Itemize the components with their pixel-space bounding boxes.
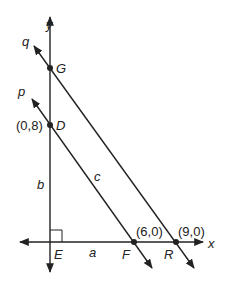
- point-f: [131, 239, 137, 245]
- point-d-coord: (0,8): [16, 118, 43, 133]
- y-axis-label: y: [45, 17, 54, 32]
- point-f-label: F: [122, 247, 131, 262]
- segment-a-label: a: [89, 245, 96, 260]
- point-g-label: G: [56, 61, 66, 76]
- point-d-label: D: [56, 118, 65, 133]
- right-angle-mark: [50, 230, 62, 242]
- point-r: [173, 239, 179, 245]
- segment-c-label: c: [94, 169, 101, 184]
- x-axis-label: x: [207, 236, 215, 251]
- point-e-label: E: [54, 247, 63, 262]
- line-q-label: q: [22, 34, 30, 49]
- point-r-coord: (9,0): [178, 224, 205, 239]
- point-r-label: R: [164, 247, 173, 262]
- point-d: [47, 122, 53, 128]
- coordinate-diagram: y x q p G D (0,8) E F (6,0) R (9,0) a b …: [0, 0, 226, 291]
- line-q: [34, 46, 194, 268]
- point-f-coord: (6,0): [136, 224, 163, 239]
- point-g: [47, 65, 53, 71]
- line-p-label: p: [17, 84, 25, 99]
- segment-b-label: b: [37, 177, 44, 192]
